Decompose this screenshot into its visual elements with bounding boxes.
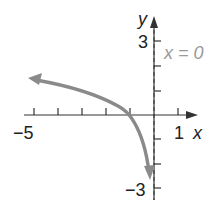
- x-axis-label: x: [193, 124, 202, 142]
- x-ticks: [34, 108, 178, 115]
- curve: [36, 80, 149, 172]
- asymptote-label: x = 0: [164, 44, 204, 62]
- graph-canvas: [0, 0, 213, 206]
- x-axis-arrow-icon: [186, 111, 198, 119]
- y-tick-label-top: 3: [138, 33, 148, 51]
- y-tick-label-bottom: −3: [125, 181, 146, 199]
- y-axis-arrow-icon: [150, 16, 158, 28]
- x-tick-label-left: −5: [13, 124, 34, 142]
- left-arrow-icon: [28, 73, 42, 85]
- y-axis-label: y: [138, 10, 147, 28]
- x-tick-label-right: 1: [174, 124, 184, 142]
